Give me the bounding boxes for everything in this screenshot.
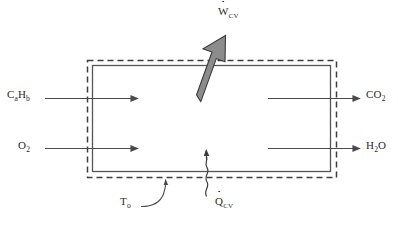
oxygen-element: O — [18, 139, 26, 151]
co2-subscript: 2 — [382, 94, 386, 103]
ambient-temperature-symbol: T — [120, 195, 127, 207]
diagram-canvas: CaHb O2 CO2 H2O WCV QCV To — [0, 0, 398, 231]
label-inlet-oxygen: O2 — [18, 140, 30, 151]
heat-subscript: CV — [223, 202, 233, 210]
control-volume-figure — [0, 0, 398, 231]
h2o-element-oxygen: O — [378, 139, 386, 151]
h2o-element-hydrogen: H — [366, 139, 374, 151]
heat-symbol-group: Q — [215, 196, 223, 207]
co2-element: CO — [366, 88, 382, 100]
heat-rate-dot-icon — [218, 191, 220, 193]
label-outlet-water: H2O — [366, 140, 386, 151]
ambient-temperature-subscript: o — [127, 201, 131, 210]
fuel-subscript-a: a — [15, 94, 18, 103]
heat-symbol: Q — [215, 195, 223, 207]
label-work-rate: WCV — [218, 6, 239, 17]
label-ambient-temperature: To — [120, 196, 131, 207]
work-rate-dot-icon — [223, 1, 225, 3]
label-inlet-fuel: CaHb — [7, 89, 30, 100]
label-heat-rate: QCV — [215, 196, 233, 207]
fuel-subscript-b: b — [26, 94, 30, 103]
ambient-temperature-leader — [142, 180, 166, 207]
fuel-element-carbon: C — [7, 88, 15, 100]
reactor-body — [93, 66, 331, 172]
label-outlet-carbon-dioxide: CO2 — [366, 89, 385, 100]
work-subscript: CV — [229, 12, 239, 20]
h2o-subscript: 2 — [374, 145, 378, 154]
oxygen-subscript: 2 — [26, 145, 30, 154]
work-symbol-group: W — [218, 6, 229, 17]
work-symbol: W — [218, 5, 229, 17]
fuel-element-hydrogen: H — [18, 88, 26, 100]
